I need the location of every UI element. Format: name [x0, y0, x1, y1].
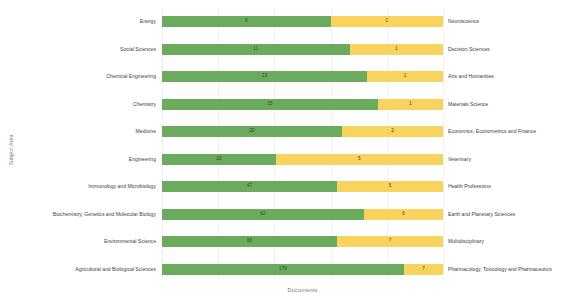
bar-value-left: 62: [260, 212, 265, 217]
bar-row[interactable]: 202: [162, 126, 443, 137]
bar-value-left: 32: [216, 157, 221, 162]
bar-value-right: 7: [389, 239, 392, 244]
bar-segment-left[interactable]: 15: [162, 99, 378, 110]
bar-value-right: 1: [404, 74, 407, 79]
bar-segment-right[interactable]: 7: [337, 236, 443, 247]
bar-value-right: 5: [358, 157, 361, 162]
bar-segment-left[interactable]: 11: [162, 44, 350, 55]
category-label-right: Veterinary: [448, 154, 578, 165]
bar-segment-left[interactable]: 20: [162, 126, 342, 137]
category-label-right: Pharmacology, Toxicology and Pharmaceuti…: [448, 264, 578, 275]
bar-row[interactable]: 131: [162, 71, 443, 82]
category-label-left: Immunology and Microbiology: [10, 181, 156, 192]
bar-value-left: 179: [279, 267, 287, 272]
category-label-left: Engineering: [10, 154, 156, 165]
category-label-right: Earth and Planetary Sciences: [448, 209, 578, 220]
category-label-left: Agricultural and Biological Sciences: [10, 264, 156, 275]
bar-value-right: 1: [395, 47, 398, 52]
bar-value-right: 1: [385, 19, 388, 24]
stacked-bar-chart: Subject Area 911111311512023254756266671…: [0, 0, 580, 299]
bar-segment-right[interactable]: 5: [276, 154, 443, 165]
bar-value-right: 5: [389, 184, 392, 189]
category-label-right: Decision Sciences: [448, 44, 578, 55]
bar-row[interactable]: 626: [162, 209, 443, 220]
bar-row[interactable]: 111: [162, 44, 443, 55]
bar-segment-left[interactable]: 47: [162, 181, 337, 192]
bar-value-left: 13: [262, 74, 267, 79]
plot-area: 911111311512023254756266671797: [162, 8, 443, 283]
category-label-right: Economics, Econometrics and Finance: [448, 126, 578, 137]
bar-value-right: 7: [422, 267, 425, 272]
category-label-left: Social Sciences: [10, 44, 156, 55]
category-label-right: Materials Science: [448, 99, 578, 110]
category-label-right: Arts and Humanities: [448, 71, 578, 82]
bar-segment-left[interactable]: 13: [162, 71, 367, 82]
bar-segment-left[interactable]: 62: [162, 209, 364, 220]
category-label-left: Environmental Science: [10, 236, 156, 247]
category-label-left: Chemistry: [10, 99, 156, 110]
bar-value-right: 1: [409, 102, 412, 107]
bar-segment-right[interactable]: 1: [378, 99, 443, 110]
bar-segment-right[interactable]: 5: [337, 181, 443, 192]
bar-segment-right[interactable]: 1: [367, 71, 443, 82]
bar-row[interactable]: 151: [162, 99, 443, 110]
bar-row[interactable]: 1797: [162, 264, 443, 275]
x-axis-title: Documents: [162, 287, 443, 293]
category-label-right: Neuroscience: [448, 16, 578, 27]
bar-row[interactable]: 667: [162, 236, 443, 247]
category-label-right: Health Professions: [448, 181, 578, 192]
bar-row[interactable]: 91: [162, 16, 443, 27]
bar-segment-right[interactable]: 1: [331, 16, 443, 27]
bar-row[interactable]: 475: [162, 181, 443, 192]
bar-value-left: 66: [247, 239, 252, 244]
category-label-left: Energy: [10, 16, 156, 27]
bar-segment-right[interactable]: 6: [364, 209, 443, 220]
bar-segment-right[interactable]: 2: [342, 126, 443, 137]
bar-value-left: 15: [267, 102, 272, 107]
bar-row[interactable]: 325: [162, 154, 443, 165]
bar-segment-right[interactable]: 7: [404, 264, 443, 275]
bar-value-left: 9: [245, 19, 248, 24]
category-label-right: Multidisciplinary: [448, 236, 578, 247]
bar-value-right: 6: [402, 212, 405, 217]
bar-value-left: 20: [249, 129, 254, 134]
bar-value-left: 47: [247, 184, 252, 189]
bar-segment-right[interactable]: 1: [350, 44, 443, 55]
bar-segment-left[interactable]: 9: [162, 16, 331, 27]
bar-segment-left[interactable]: 179: [162, 264, 404, 275]
bar-value-right: 2: [391, 129, 394, 134]
category-label-left: Chemical Engineering: [10, 71, 156, 82]
category-label-left: Biochemistry, Genetics and Molecular Bio…: [10, 209, 156, 220]
category-label-left: Medicine: [10, 126, 156, 137]
bar-value-left: 11: [253, 47, 258, 52]
bar-segment-left[interactable]: 66: [162, 236, 337, 247]
bar-segment-left[interactable]: 32: [162, 154, 276, 165]
gridline: [443, 8, 444, 283]
